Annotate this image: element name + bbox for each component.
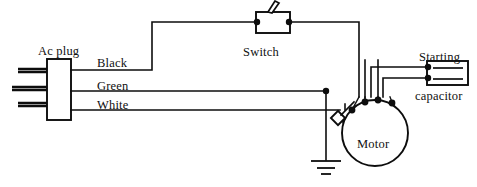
earth-ground-symbol <box>311 161 341 174</box>
switch-terminal-left <box>254 19 260 25</box>
switch-label: Switch <box>243 46 279 59</box>
capacitor-terminal-upper <box>425 64 431 70</box>
motor-label: Motor <box>357 138 389 151</box>
starting-capacitor-component <box>425 61 468 85</box>
capacitor-terminal-lower <box>425 75 431 81</box>
ac-plug-body <box>47 59 71 120</box>
green-bus-junction-dot <box>323 88 329 94</box>
motor-terminal-1 <box>349 107 356 114</box>
switch-terminal-right <box>286 19 292 25</box>
ac-plug-prongs <box>12 69 52 106</box>
switch-body[interactable] <box>256 12 290 33</box>
wiring-schematic-canvas <box>0 0 477 187</box>
starting-capacitor-label-line1: Starting <box>419 51 460 64</box>
black-wire-label: Black <box>97 57 127 70</box>
ac-plug-label: Ac plug <box>38 45 79 58</box>
ac-plug-component <box>12 59 71 120</box>
motor-component <box>342 97 408 166</box>
switch-component[interactable] <box>254 1 292 33</box>
starting-capacitor-label-line2: capacitor <box>415 90 463 103</box>
wiring-diagram: Ac plug Black Green White Switch Motor S… <box>0 0 477 187</box>
green-wire-label: Green <box>97 80 129 93</box>
white-wire-label: White <box>97 99 129 112</box>
black-wire-to-motor-path <box>289 22 359 97</box>
capacitor-body <box>427 61 468 85</box>
